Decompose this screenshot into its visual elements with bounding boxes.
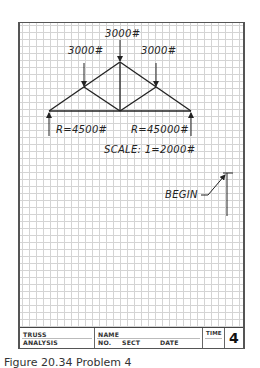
figure-caption: Figure 20.34 Problem 4 xyxy=(4,356,132,368)
no-label: NO. xyxy=(98,339,111,346)
begin-marker xyxy=(201,173,233,216)
title-cell: TRUSS ANALYSIS xyxy=(20,328,95,348)
name-label: NAME xyxy=(98,331,119,338)
scale-label: SCALE: 1=2000# xyxy=(104,144,195,155)
truss-drawing xyxy=(0,0,260,368)
right-reaction-label: R=45000# xyxy=(131,124,189,135)
left-load-label: 3000# xyxy=(68,45,103,56)
title-line1: TRUSS xyxy=(23,331,47,338)
title-line2: ANALYSIS xyxy=(23,339,58,346)
title-block: TRUSS ANALYSIS NAME NO. SECT DATE TIME 4 xyxy=(20,327,243,348)
name-cell: NAME NO. SECT DATE xyxy=(95,328,203,348)
time-cell: TIME xyxy=(203,328,225,348)
sect-label: SECT xyxy=(122,339,140,346)
truss-members xyxy=(49,62,191,111)
date-label: DATE xyxy=(160,339,179,346)
time-label: TIME xyxy=(206,330,222,336)
begin-label: BEGIN xyxy=(165,189,198,200)
right-load-label: 3000# xyxy=(141,45,176,56)
problem-number-cell: 4 xyxy=(225,328,243,348)
problem-number: 4 xyxy=(229,330,239,346)
left-reaction-label: R=4500# xyxy=(56,124,107,135)
apex-load-label: 3000# xyxy=(105,28,140,39)
